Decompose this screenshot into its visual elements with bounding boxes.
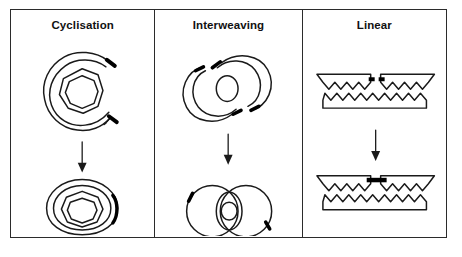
panel-art-interweaving — [155, 36, 301, 236]
fragment-bottom-strand — [323, 93, 427, 108]
sealed-bond-bar — [366, 178, 386, 182]
interweaving-open-arcs — [183, 56, 271, 121]
open-arc-upper-right-inner — [218, 61, 261, 106]
ligated-bottom-strand — [323, 195, 427, 210]
fragment-left-top-strand — [317, 74, 371, 89]
panel-art-linear — [303, 36, 446, 236]
panel-interweaving: Interweaving — [155, 10, 302, 237]
cyclisation-transition-arrow — [78, 142, 87, 173]
ligated-right-top-strand — [380, 176, 434, 191]
linear-transition-arrow — [371, 130, 380, 161]
cohesive-end-top — [107, 60, 115, 66]
panel-row: Cyclisation — [11, 10, 446, 237]
cyclisation-open-coil — [44, 52, 117, 130]
cyclisation-closed-circle — [47, 179, 118, 234]
coil-outer-strand-tail — [104, 118, 110, 124]
panel-art-cyclisation — [11, 36, 154, 236]
free-end-right — [251, 106, 259, 110]
closed-inner-polygon-inner — [67, 198, 97, 223]
nick-marker-left — [368, 77, 374, 81]
ligated-left-top-strand — [317, 176, 371, 191]
figure-frame: Cyclisation — [10, 9, 447, 238]
nick-marker-right — [378, 77, 384, 81]
panel-linear: Linear — [303, 10, 446, 237]
linear-separate-fragments — [317, 74, 434, 108]
open-arc-lower-left-inner — [193, 71, 236, 116]
central-overlap-ring — [217, 76, 239, 102]
catenane-core-ring — [222, 202, 238, 220]
fragment-right-top-strand — [380, 74, 434, 89]
cohesive-end-bottom — [109, 116, 117, 122]
linear-ligated-duplex — [317, 176, 434, 210]
coil-outer-strand-upper — [44, 52, 110, 130]
panel-title-cyclisation: Cyclisation — [11, 19, 154, 31]
open-arc-lower-left — [183, 67, 232, 121]
interweaving-transition-arrow — [224, 134, 233, 165]
panel-title-interweaving: Interweaving — [155, 19, 301, 31]
open-arc-upper-right — [222, 56, 272, 110]
panel-cyclisation: Cyclisation — [11, 10, 155, 237]
panel-title-linear: Linear — [303, 19, 446, 31]
free-end-left — [196, 67, 204, 71]
catenane-joint-left — [189, 193, 193, 201]
interweaving-catenane — [187, 185, 272, 236]
sealed-junction — [113, 195, 117, 223]
caption-artifact — [12, 243, 442, 255]
figure-root: Cyclisation — [0, 0, 462, 257]
coil-inner-polygon-inner — [65, 76, 98, 109]
